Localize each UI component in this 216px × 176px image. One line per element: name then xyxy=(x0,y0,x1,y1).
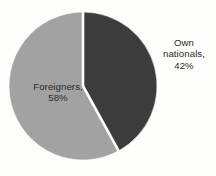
pie-label-own-nationals-value: 42% xyxy=(154,60,214,71)
pie-chart: Own nationals, 42% Foreigners, 58% xyxy=(0,0,216,176)
pie-label-own-nationals: Own nationals, 42% xyxy=(154,37,214,71)
pie-label-own-nationals-line-2: nationals, xyxy=(154,48,214,59)
pie-label-foreigners: Foreigners, 58% xyxy=(20,81,96,104)
pie-label-own-nationals-line-1: Own xyxy=(154,37,214,48)
pie-label-foreigners-value: 58% xyxy=(20,92,96,103)
pie-label-foreigners-line-1: Foreigners, xyxy=(20,81,96,92)
